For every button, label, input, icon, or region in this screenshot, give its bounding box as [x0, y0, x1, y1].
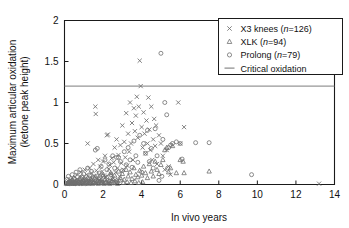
legend-label-1: XLK (n=94)	[241, 37, 287, 47]
y-axis-title-line1: Maximum articular oxidation	[7, 40, 18, 165]
y-tick-label-4: 2	[53, 15, 59, 26]
y-tick-label-0: 0	[53, 179, 59, 190]
x-tick-label-0: 0	[62, 189, 68, 200]
x-tick-label-3: 6	[177, 189, 183, 200]
y-tick-label-3: 1.5	[45, 56, 59, 67]
x-axis-title: In vivo years	[171, 212, 227, 223]
chart-canvas: 02468101214 00.511.52 In vivo years Maxi…	[0, 0, 349, 228]
legend-label-2: Prolong (n=79)	[241, 50, 301, 60]
x-tick-label-4: 8	[216, 189, 222, 200]
x-tick-label-5: 10	[252, 189, 264, 200]
chart-legend: X3 knees (n=126)XLK (n=94)Prolong (n=79)…	[219, 19, 343, 75]
scatter-plot-figure: 02468101214 00.511.52 In vivo years Maxi…	[0, 0, 349, 228]
legend-item-0[interactable]: X3 knees (n=126)	[227, 24, 312, 34]
y-tick-label-1: 0.5	[45, 138, 59, 149]
legend-label-3: Critical oxidation	[241, 64, 307, 74]
x-tick-label-1: 2	[100, 189, 106, 200]
legend-label-0: X3 knees (n=126)	[241, 24, 312, 34]
x-tick-label-2: 4	[139, 189, 145, 200]
y-axis-title-line2: (ketone peak height)	[19, 56, 30, 147]
x-tick-label-7: 14	[329, 189, 341, 200]
x-tick-label-6: 12	[290, 189, 302, 200]
y-tick-label-2: 1	[53, 97, 59, 108]
